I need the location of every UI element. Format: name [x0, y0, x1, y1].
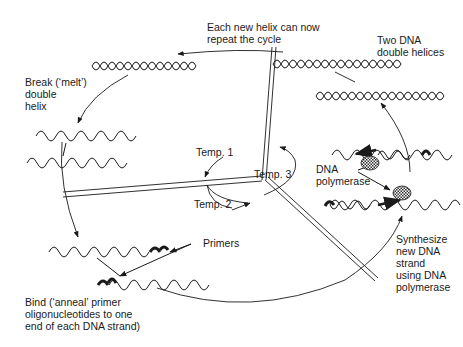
label-primers: Primers [203, 237, 239, 249]
label-temp1: Temp. 1 [196, 146, 233, 158]
label-melt: Break (‘melt’) double helix [25, 76, 87, 112]
dna-double-helix-top-left [92, 62, 196, 70]
label-synthesize: Synthesize new DNA strand using DNA poly… [396, 233, 450, 293]
polymerase-enzyme-bottom [393, 186, 411, 200]
label-temp2: Temp. 2 [194, 198, 231, 210]
strands-with-primers [49, 244, 209, 290]
dna-double-helices-right [273, 60, 444, 100]
single-strands-melted [27, 131, 136, 168]
label-dna-polymerase: DNA polymerase [316, 163, 370, 187]
label-two-helices: Two DNA double helices [377, 34, 444, 58]
label-repeat-cycle: Each new helix can now repeat the cycle [207, 21, 320, 45]
label-temp3: Temp. 3 [254, 168, 291, 180]
label-anneal: Bind (‘anneal’ primer oligonucleotides t… [25, 296, 140, 332]
pcr-cycle-diagram: Each new helix can now repeat the cycle … [0, 0, 463, 347]
